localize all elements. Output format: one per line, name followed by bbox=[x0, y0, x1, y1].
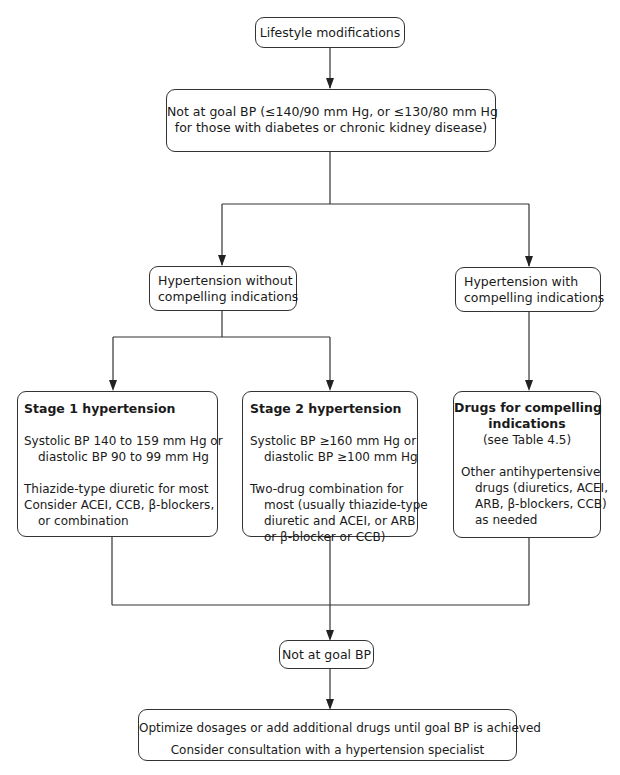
hypertension-with-ci-node: Hypertension with compelling indications bbox=[455, 267, 601, 312]
node-title: Stage 1 hypertension bbox=[24, 401, 217, 417]
node-title-line-2: indications bbox=[454, 416, 600, 432]
node-text-line-1: Hypertension with bbox=[464, 274, 600, 290]
node-text: Not at goal BP bbox=[280, 647, 373, 663]
treatment-line-1: Thiazide-type diuretic for most bbox=[24, 481, 217, 497]
node-text-line-2: Consider consultation with a hypertensio… bbox=[139, 739, 516, 761]
treatment-line-4: or β-blocker or CCB) bbox=[250, 529, 417, 545]
treatment-line-2: Consider ACEI, CCB, β-blockers, bbox=[24, 497, 217, 513]
hypertension-without-ci-node: Hypertension without compelling indicati… bbox=[149, 266, 297, 311]
node-text: Lifestyle modifications bbox=[256, 25, 404, 41]
treatment-line-4: as needed bbox=[461, 512, 600, 528]
table-reference: (see Table 4.5) bbox=[454, 432, 600, 448]
criteria-line-2: diastolic BP ≥100 mm Hg bbox=[250, 449, 417, 465]
optimize-dosages-node: Optimize dosages or add additional drugs… bbox=[138, 709, 517, 761]
not-at-goal-bp-node: Not at goal BP (≤140/90 mm Hg, or ≤130/8… bbox=[166, 89, 496, 152]
node-text-line-2: compelling indications bbox=[464, 290, 600, 306]
node-text-line-1: Not at goal BP (≤140/90 mm Hg, or ≤130/8… bbox=[167, 104, 495, 120]
node-text-line-2: for those with diabetes or chronic kidne… bbox=[167, 120, 495, 136]
lifestyle-modifications-node: Lifestyle modifications bbox=[255, 17, 405, 48]
treatment-line-2: most (usually thiazide-type bbox=[250, 497, 417, 513]
node-title-line-1: Drugs for compelling bbox=[454, 400, 600, 416]
criteria-line-1: Systolic BP ≥160 mm Hg or bbox=[250, 433, 417, 449]
drugs-for-compelling-indications-node: Drugs for compelling indications (see Ta… bbox=[453, 391, 601, 538]
criteria-line-1: Systolic BP 140 to 159 mm Hg or bbox=[24, 433, 217, 449]
criteria-line-2: diastolic BP 90 to 99 mm Hg bbox=[24, 449, 217, 465]
treatment-line-3: diuretic and ACEI, or ARB bbox=[250, 513, 417, 529]
node-title: Stage 2 hypertension bbox=[250, 401, 417, 417]
treatment-line-3: or combination bbox=[24, 513, 217, 529]
node-text-line-1: Optimize dosages or add additional drugs… bbox=[139, 717, 516, 739]
treatment-line-1: Two-drug combination for bbox=[250, 481, 417, 497]
treatment-line-2: drugs (diuretics, ACEI, bbox=[461, 480, 600, 496]
flowchart-canvas: Lifestyle modifications Not at goal BP (… bbox=[0, 0, 620, 775]
treatment-line-3: ARB, β-blockers, CCB) bbox=[461, 496, 600, 512]
treatment-line-1: Other antihypertensive bbox=[461, 464, 600, 480]
stage-2-hypertension-node: Stage 2 hypertension Systolic BP ≥160 mm… bbox=[242, 391, 418, 537]
node-text-line-2: compelling indications bbox=[158, 289, 296, 305]
stage-1-hypertension-node: Stage 1 hypertension Systolic BP 140 to … bbox=[17, 391, 218, 537]
node-text-line-1: Hypertension without bbox=[158, 273, 296, 289]
not-at-goal-bp-node-2: Not at goal BP bbox=[279, 640, 374, 669]
